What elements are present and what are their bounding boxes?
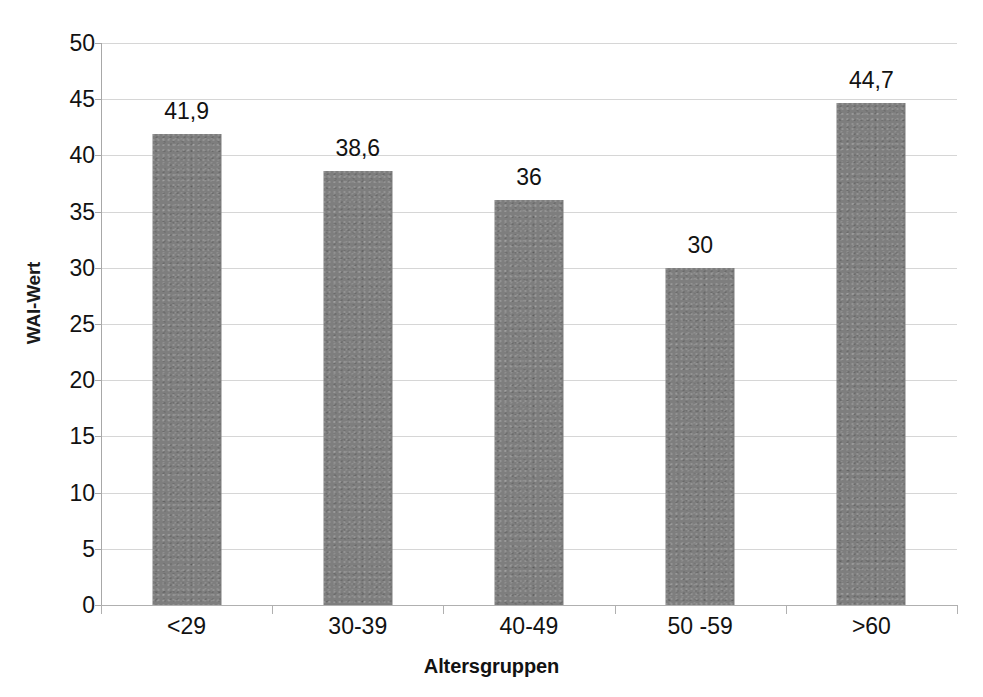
y-tick-label: 20 xyxy=(21,369,95,392)
x-tick-mark xyxy=(786,605,787,614)
bar[interactable] xyxy=(666,268,735,605)
y-tick-label: 35 xyxy=(21,201,95,224)
x-tick-mark xyxy=(615,605,616,614)
y-tick-label: 40 xyxy=(21,144,95,167)
bar[interactable] xyxy=(837,103,906,605)
y-tick-label: 15 xyxy=(21,425,95,448)
bar[interactable] xyxy=(494,200,563,605)
x-tick-label: >60 xyxy=(786,615,957,638)
bar-value-label: 30 xyxy=(687,234,713,257)
bar-value-label: 38,6 xyxy=(335,137,380,160)
y-tick-label: 10 xyxy=(21,482,95,505)
bar-group: 44,7 xyxy=(786,43,957,605)
x-axis-line xyxy=(101,605,958,606)
x-tick-label: 50 -59 xyxy=(615,615,786,638)
y-axis-ticks: 05101520253035404550 xyxy=(0,0,95,697)
x-tick-mark xyxy=(101,605,102,614)
y-tick-label: 0 xyxy=(21,594,95,617)
y-tick-label: 5 xyxy=(21,538,95,561)
bar-group: 41,9 xyxy=(101,43,272,605)
bar-group: 30 xyxy=(615,43,786,605)
bar-value-label: 44,7 xyxy=(849,69,894,92)
bar[interactable] xyxy=(323,171,392,605)
x-tick-mark xyxy=(443,605,444,614)
bar-group: 38,6 xyxy=(272,43,443,605)
x-tick-label: 30-39 xyxy=(272,615,443,638)
y-tick-label: 30 xyxy=(21,257,95,280)
y-tick-label: 45 xyxy=(21,88,95,111)
y-tick-label: 50 xyxy=(21,32,95,55)
x-tick-mark xyxy=(272,605,273,614)
bar-chart: WAI-Wert 05101520253035404550 41,938,636… xyxy=(0,0,983,697)
bar-group: 36 xyxy=(443,43,614,605)
x-tick-mark xyxy=(957,605,958,614)
bar[interactable] xyxy=(152,134,221,605)
x-tick-label: <29 xyxy=(101,615,272,638)
x-axis-title: Altersgruppen xyxy=(0,655,983,678)
bar-value-label: 36 xyxy=(516,166,542,189)
y-tick-label: 25 xyxy=(21,313,95,336)
x-tick-label: 40-49 xyxy=(443,615,614,638)
bars-layer: 41,938,6363044,7 xyxy=(101,43,957,605)
bar-value-label: 41,9 xyxy=(164,100,209,123)
